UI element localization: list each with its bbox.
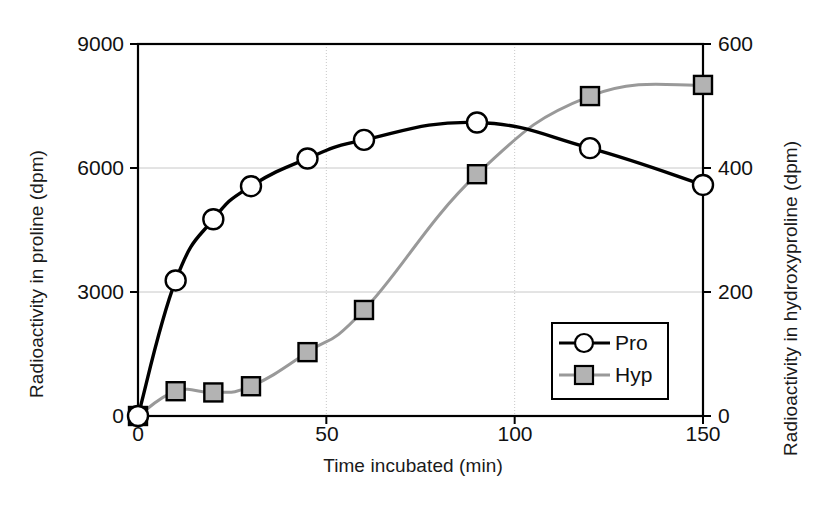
data-point-hyp-20	[204, 383, 222, 401]
data-point-pro-0	[128, 406, 148, 426]
plot-canvas	[0, 0, 826, 506]
data-point-pro-20	[203, 209, 223, 229]
chart-figure: Radioactivity in proline (dpm) Radioacti…	[0, 0, 826, 506]
circle-marker-icon	[575, 334, 593, 352]
data-point-pro-45	[298, 148, 318, 168]
data-point-hyp-45	[299, 343, 317, 361]
data-point-pro-90	[467, 113, 487, 133]
data-point-hyp-120	[581, 87, 599, 105]
data-point-pro-60	[354, 130, 374, 150]
square-marker-icon	[575, 366, 593, 384]
data-point-hyp-10	[167, 382, 185, 400]
data-point-pro-120	[580, 138, 600, 158]
data-point-pro-150	[693, 175, 713, 195]
legend-box: Pro Hyp	[551, 322, 669, 400]
data-point-hyp-30	[242, 377, 260, 395]
data-point-hyp-150	[694, 76, 712, 94]
legend-label-hyp: Hyp	[615, 363, 652, 387]
data-point-pro-10	[166, 270, 186, 290]
data-point-pro-30	[241, 176, 261, 196]
data-point-hyp-90	[468, 165, 486, 183]
legend-label-pro: Pro	[615, 331, 648, 355]
data-point-hyp-60	[355, 301, 373, 319]
